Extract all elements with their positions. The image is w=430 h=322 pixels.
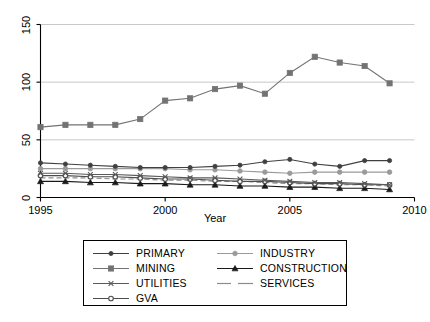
legend-marker-services-icon [216, 277, 254, 290]
y-axis-tick-label: 50 [16, 131, 36, 149]
data-point [188, 96, 193, 101]
data-point [63, 122, 68, 127]
legend-marker-industry-icon [216, 247, 254, 260]
legend-label: INDUSTRY [260, 248, 315, 259]
data-point [188, 165, 192, 169]
data-point [387, 158, 391, 162]
data-point [88, 122, 93, 127]
data-point [212, 86, 217, 91]
data-point [288, 157, 292, 161]
data-point [362, 63, 367, 68]
data-point [238, 163, 242, 167]
data-point [387, 170, 392, 175]
data-point [263, 170, 268, 175]
y-axis-tick-label: 150 [16, 16, 36, 34]
data-point [263, 160, 267, 164]
data-point [338, 164, 342, 168]
legend-marker-construction-icon [216, 262, 254, 275]
legend: PRIMARYINDUSTRYMININGCONSTRUCTIONUTILITI… [83, 240, 347, 306]
data-point [387, 81, 392, 86]
legend-label: SERVICES [260, 278, 315, 289]
data-point [109, 251, 113, 255]
plot-area: 050100150 1995200020052010 [0, 0, 430, 232]
data-point [313, 162, 317, 166]
legend-marker-gva-icon [92, 292, 130, 305]
chart-figure: 050100150 1995200020052010 Year PRIMARYI… [0, 0, 430, 322]
data-point [287, 70, 292, 75]
data-point [138, 165, 142, 169]
legend-marker-mining-icon [92, 262, 130, 275]
data-point [113, 122, 118, 127]
plot-canvas [0, 0, 430, 232]
legend-label: GVA [136, 293, 158, 304]
legend-entries: PRIMARYINDUSTRYMININGCONSTRUCTIONUTILITI… [92, 246, 342, 306]
legend-item-industry[interactable]: INDUSTRY [216, 246, 342, 261]
y-axis-tick-label: 100 [16, 73, 36, 91]
data-point [363, 158, 367, 162]
legend-item-gva[interactable]: GVA [92, 291, 216, 306]
x-axis-title: Year [0, 212, 430, 224]
legend-item-mining[interactable]: MINING [92, 261, 216, 276]
data-point [163, 98, 168, 103]
data-point [312, 170, 317, 175]
legend-item-services[interactable]: SERVICES [216, 276, 342, 291]
data-point [63, 166, 68, 171]
data-point [38, 166, 43, 171]
data-point [213, 164, 217, 168]
legend-item-utilities[interactable]: UTILITIES [92, 276, 216, 291]
data-point [63, 162, 67, 166]
data-point [312, 54, 317, 59]
data-point [163, 165, 167, 169]
data-point [362, 170, 367, 175]
data-point [88, 163, 92, 167]
legend-marker-primary-icon [92, 247, 130, 260]
legend-item-construction[interactable]: CONSTRUCTION [216, 261, 342, 276]
data-point [337, 60, 342, 65]
legend-label: MINING [136, 263, 175, 274]
legend-item-primary[interactable]: PRIMARY [92, 246, 216, 261]
data-point [237, 83, 242, 88]
data-point [238, 169, 243, 174]
legend-label: PRIMARY [136, 248, 185, 259]
data-point [262, 91, 267, 96]
data-point [138, 116, 143, 121]
data-point [38, 125, 43, 130]
data-point [38, 161, 42, 165]
legend-label: CONSTRUCTION [260, 263, 347, 274]
legend-marker-utilities-icon [92, 277, 130, 290]
data-point [108, 266, 113, 271]
legend-label: UTILITIES [136, 278, 187, 289]
data-point [288, 171, 293, 176]
data-point [337, 170, 342, 175]
data-point [233, 251, 238, 256]
data-point [113, 164, 117, 168]
data-point [109, 296, 114, 301]
series-mining [38, 54, 392, 130]
